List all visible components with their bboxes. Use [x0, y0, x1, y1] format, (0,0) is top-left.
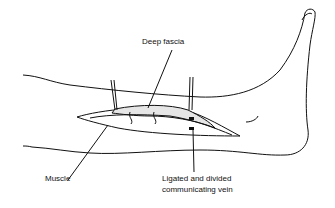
leader-muscle	[68, 125, 108, 180]
label-deep-fascia: Deep fascia	[142, 37, 184, 47]
fascia-region	[112, 105, 215, 128]
retractor-right	[189, 77, 193, 110]
ankle-mark	[246, 116, 258, 122]
label-vein-line2: communicating vein	[162, 185, 233, 195]
label-muscle: Muscle	[45, 174, 70, 184]
leader-vein	[193, 130, 194, 172]
label-vein-line1: Ligated and divided	[162, 174, 231, 184]
leg-upper-outline	[23, 9, 315, 155]
leader-deep-fascia	[148, 50, 172, 108]
retractor-left	[111, 80, 117, 110]
